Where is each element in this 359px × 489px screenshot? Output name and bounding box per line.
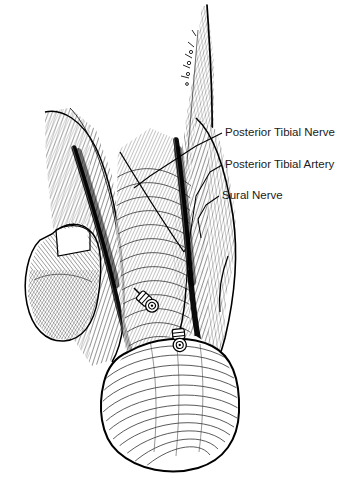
anatomy-illustration bbox=[0, 0, 359, 489]
label-posterior-tibial-artery: Posterior Tibial Artery bbox=[225, 158, 334, 171]
label-sural-nerve: Sural Nerve bbox=[222, 189, 283, 202]
label-posterior-tibial-nerve: Posterior Tibial Nerve bbox=[225, 126, 335, 139]
anatomical-figure: Posterior Tibial Nerve Posterior Tibial … bbox=[0, 0, 359, 489]
